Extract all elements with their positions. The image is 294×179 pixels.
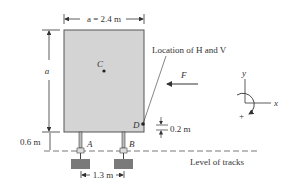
height-dimension: a (42, 30, 60, 132)
x-axis-label: x (273, 98, 278, 108)
force-label: F (180, 70, 187, 80)
footing-b (114, 159, 133, 169)
support-spacing-dimension: 1.3 m (81, 170, 124, 179)
leg-height-dimension: 0.6 m (20, 133, 50, 150)
offset-dimension: 0.2 m (156, 117, 191, 138)
height-label: a (45, 66, 50, 76)
width-dimension: a = 2.4 m (64, 14, 144, 24)
center-label: C (97, 59, 104, 69)
leg-height-label: 0.6 m (20, 137, 41, 147)
location-leader-line (143, 56, 166, 124)
moment-sign: + (239, 111, 244, 121)
center-point (102, 69, 105, 72)
support-b-label: B (129, 139, 135, 149)
support-spacing-label: 1.3 m (93, 170, 114, 179)
load-point-label: D (132, 120, 140, 130)
width-label: a = 2.4 m (87, 14, 121, 24)
support-a-label: A (86, 139, 93, 149)
offset-label: 0.2 m (170, 124, 191, 134)
coordinate-axes: y x + (237, 68, 278, 121)
gantry-body (64, 30, 144, 132)
support-leg-a: A (71, 132, 93, 169)
gantry-free-body-diagram: a = 2.4 m C a 0.6 m A B (0, 0, 294, 179)
y-axis-label: y (241, 68, 246, 78)
footing-a (71, 159, 90, 169)
track-level-label: Level of tracks (190, 157, 244, 167)
location-note: Location of H and V (152, 45, 227, 55)
support-leg-b: B (114, 132, 135, 169)
